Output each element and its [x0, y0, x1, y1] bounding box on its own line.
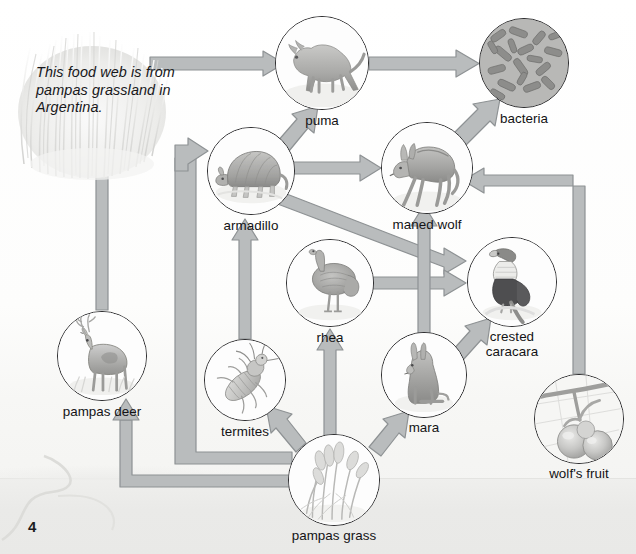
mara-label: mara	[382, 420, 466, 435]
pampas-grass-label: pampas grass	[278, 528, 390, 543]
maned-wolf-label: maned wolf	[379, 217, 475, 232]
food-web-page: This food web is from pampas grassland i…	[0, 0, 636, 554]
rhea-label: rhea	[288, 330, 372, 345]
arrow-armadillo-to-manedwolf	[293, 155, 381, 181]
bacteria-circle[interactable]	[479, 18, 569, 108]
pampas-deer-circle[interactable]	[57, 311, 147, 401]
termites-label: termites	[203, 424, 287, 439]
wolfs-fruit-label: wolf's fruit	[532, 466, 626, 481]
arrow-puma-to-bacteria	[369, 50, 479, 77]
armadillo-circle[interactable]	[207, 127, 295, 215]
pampas-grass-circle[interactable]	[288, 434, 380, 526]
puma-label: puma	[275, 113, 369, 128]
rhea-circle[interactable]	[286, 239, 374, 327]
crested-caracara-circle[interactable]	[467, 237, 557, 327]
wolfs-fruit-circle[interactable]	[534, 374, 624, 464]
maned-wolf-circle[interactable]	[381, 122, 473, 214]
termites-circle[interactable]	[204, 339, 286, 421]
arrow-grass-to-rhea	[317, 329, 343, 443]
arrow-termites-to-armadillo	[232, 219, 258, 339]
mara-circle[interactable]	[381, 332, 467, 418]
pampas-deer-label: pampas deer	[44, 404, 160, 419]
caption-text: This food web is from pampas grassland i…	[36, 64, 176, 117]
crested-caracara-label: crested caracara	[466, 329, 558, 359]
puma-circle[interactable]	[275, 16, 369, 110]
page-number: 4	[28, 518, 36, 535]
armadillo-label: armadillo	[203, 218, 299, 233]
bacteria-label: bacteria	[479, 111, 569, 126]
